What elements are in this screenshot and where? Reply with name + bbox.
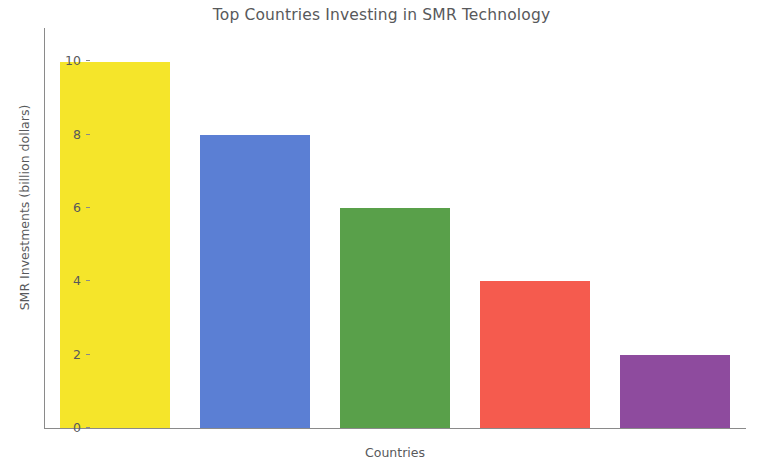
y-tick-mark xyxy=(86,354,90,355)
y-tick-label: 6 xyxy=(73,199,81,216)
y-tick-label: 10 xyxy=(65,52,81,69)
y-tick-label: 8 xyxy=(73,126,81,143)
y-tick-mark xyxy=(86,280,90,281)
x-axis-label: Countries xyxy=(45,445,745,460)
plot-area: 0246810 ChinaUSAUKFranceArgentina xyxy=(45,45,745,428)
y-tick-label: 4 xyxy=(73,272,81,289)
chart-title: Top Countries Investing in SMR Technolog… xyxy=(0,6,763,24)
y-tick-mark xyxy=(86,134,90,135)
y-tick-label: 2 xyxy=(73,346,81,363)
x-axis-spine xyxy=(44,428,746,429)
bar-usa xyxy=(200,135,310,428)
bar-uk xyxy=(340,208,450,428)
y-tick-mark xyxy=(86,427,90,428)
bar-argentina xyxy=(620,355,730,428)
bar-chart-figure: Top Countries Investing in SMR Technolog… xyxy=(0,0,763,464)
bar-france xyxy=(480,281,590,428)
y-axis-label: SMR Investments (billion dollars) xyxy=(17,8,32,408)
y-tick-mark xyxy=(86,207,90,208)
y-tick-label: 0 xyxy=(73,419,81,436)
y-tick-mark xyxy=(86,60,90,61)
bar-china xyxy=(60,62,170,429)
